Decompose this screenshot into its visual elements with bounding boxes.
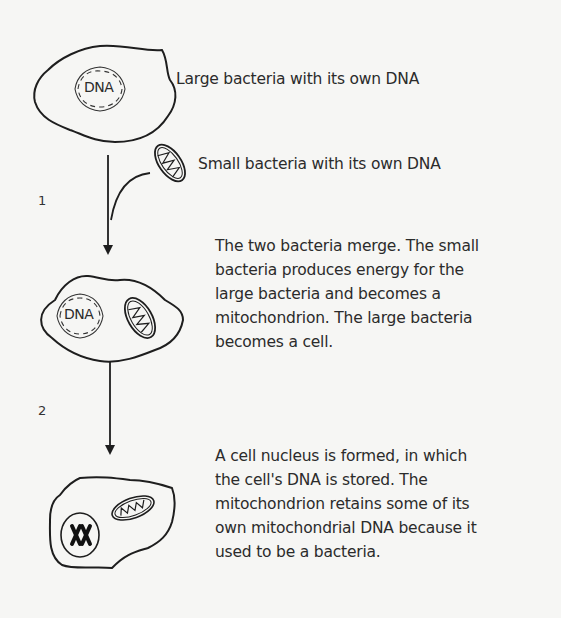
mitochondrion-icon	[109, 491, 157, 525]
description-line: becomes a cell.	[215, 330, 555, 354]
description-line: large bacteria and becomes a	[215, 282, 555, 306]
step-2-number: 2	[38, 403, 46, 418]
mitochondrion-icon	[119, 293, 162, 343]
chromosome-icon	[72, 526, 90, 544]
small-bacteria-label: Small bacteria with its own DNA	[198, 155, 441, 173]
large-bacteria-label: Large bacteria with its own DNA	[176, 70, 419, 88]
merged-cell-icon	[41, 276, 183, 362]
step-2-description: A cell nucleus is formed, in which the c…	[215, 444, 555, 564]
description-line: mitochondrion. The large bacteria	[215, 306, 555, 330]
description-line: own mitochondrial DNA because it	[215, 516, 555, 540]
nucleus-icon	[61, 513, 99, 557]
description-line: used to be a bacteria.	[215, 540, 555, 564]
description-line: bacteria produces energy for the	[215, 258, 555, 282]
description-line: A cell nucleus is formed, in which	[215, 444, 555, 468]
small-bacteria-icon	[149, 139, 191, 186]
description-line: the cell's DNA is stored. The	[215, 468, 555, 492]
dna-label: DNA	[64, 306, 93, 322]
step-1-description: The two bacteria merge. The small bacter…	[215, 234, 555, 354]
description-line: mitochondrion retains some of its	[215, 492, 555, 516]
step-1-number: 1	[38, 193, 46, 208]
description-line: The two bacteria merge. The small	[215, 234, 555, 258]
eukaryotic-cell-icon	[50, 477, 175, 568]
step-1-arrow	[108, 155, 150, 250]
dna-label: DNA	[84, 79, 113, 95]
